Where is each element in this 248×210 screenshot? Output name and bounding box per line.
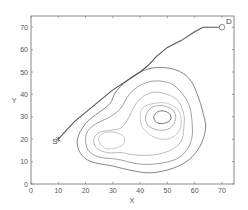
chart-canvas: 010203040506070 010203040506070 X Y S D [0,0,248,210]
x-tick-label: 40 [136,187,144,194]
y-tick-label: 40 [20,91,28,98]
destination-label: D [226,17,232,26]
x-tick-label: 50 [164,187,172,194]
y-tick-label: 60 [20,46,28,53]
destination-marker-icon [219,24,225,30]
path-series [58,27,222,139]
x-tick-label: 70 [218,187,226,194]
y-axis-label: Y [12,97,17,104]
x-tick-label: 10 [54,187,62,194]
axes-frame [31,16,234,184]
x-tick-label: 30 [109,187,117,194]
y-tick-label: 0 [24,181,28,188]
contour-line [154,111,171,124]
contour-line [86,81,193,165]
x-tick-label: 0 [29,187,33,194]
y-axis-ticks: 010203040506070 [20,24,234,188]
y-tick-label: 30 [20,113,28,120]
x-axis-ticks: 010203040506070 [29,16,226,194]
x-axis-label: X [130,197,135,204]
y-tick-label: 70 [20,24,28,31]
start-label: S [52,137,57,146]
contour-line [77,67,206,172]
markers [56,24,225,141]
contour-line [94,92,185,155]
x-tick-label: 60 [191,187,199,194]
path-line [58,27,222,139]
y-tick-label: 50 [20,69,28,76]
y-tick-label: 10 [20,158,28,165]
contour-line [99,132,125,149]
x-tick-label: 20 [82,187,90,194]
contour-lines [77,67,206,172]
y-tick-label: 20 [20,136,28,143]
